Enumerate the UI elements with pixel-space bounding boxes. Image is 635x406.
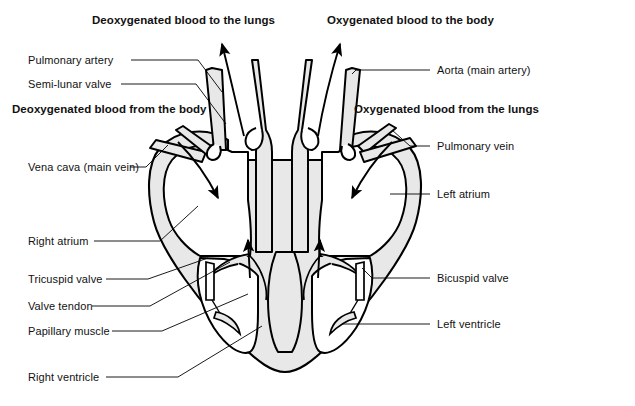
- part-label-valve-tendon: Valve tendon: [28, 300, 93, 312]
- part-label-left-atrium: Left atrium: [437, 188, 490, 200]
- part-label-papillary-muscle: Papillary muscle: [28, 325, 110, 337]
- part-label-bicuspid-valve: Bicuspid valve: [437, 272, 509, 284]
- central-vessel-left-branch: [252, 60, 272, 252]
- part-label-semi-lunar-valve: Semi-lunar valve: [28, 78, 112, 90]
- semi-lunar-valve-centre-left: [246, 128, 263, 150]
- part-label-pulmonary-vein: Pulmonary vein: [437, 140, 514, 152]
- part-label-left-ventricle: Left ventricle: [437, 318, 501, 330]
- leader-aorta: [352, 70, 430, 74]
- flow-label-oxygenated-from-lungs: Oxygenated blood from the lungs: [354, 103, 539, 115]
- heart-diagram: Deoxygenated blood to the lungs Oxygenat…: [0, 0, 635, 406]
- part-label-pulmonary-artery: Pulmonary artery: [28, 54, 113, 66]
- flow-label-deoxygenated-to-lungs: Deoxygenated blood to the lungs: [92, 14, 275, 26]
- part-label-vena-cava: Vena cava (main vein): [28, 161, 139, 173]
- bicuspid-valve-cusp: [356, 262, 364, 300]
- central-vessel-right-branch: [292, 60, 312, 252]
- part-label-aorta: Aorta (main artery): [437, 64, 531, 76]
- arrow-out-aorta-icon: [318, 44, 340, 136]
- part-label-right-atrium: Right atrium: [28, 235, 89, 247]
- semi-lunar-valve-centre-right: [301, 128, 318, 150]
- part-label-tricuspid-valve: Tricuspid valve: [28, 273, 102, 285]
- flow-label-oxygenated-to-body: Oxygenated blood to the body: [327, 14, 494, 26]
- part-label-right-ventricle: Right ventricle: [28, 371, 99, 383]
- tricuspid-valve-cusp: [206, 262, 214, 300]
- flow-label-deoxygenated-from-body: Deoxygenated blood from the body: [12, 103, 207, 115]
